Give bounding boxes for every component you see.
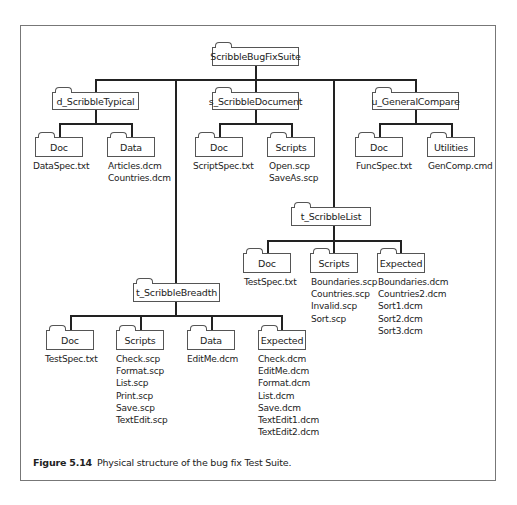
connector (267, 240, 269, 253)
folder-label: t_ScribbleBreadth (136, 287, 217, 298)
file-list: EditMe.dcm (187, 353, 238, 365)
folder-icon (49, 325, 66, 331)
folder-t-scribble-breadth: t_ScribbleBreadth (133, 283, 220, 302)
file-item: Articles.dcm (108, 160, 171, 172)
folder-doc: Doc (243, 253, 291, 273)
folder-icon (430, 132, 447, 138)
file-list: GenComp.cmd (428, 160, 493, 172)
folder-icon (119, 325, 136, 331)
connector (379, 123, 381, 137)
folder-label: Data (200, 335, 222, 346)
folder-doc: Doc (35, 137, 83, 157)
file-item: Print.scp (116, 390, 167, 402)
file-item: TestSpec.txt (45, 353, 97, 365)
file-item: TextEdit.scp (116, 414, 167, 426)
folder-icon (198, 132, 215, 138)
file-item: Check.dcm (258, 353, 319, 365)
folder-scripts: Scripts (310, 253, 358, 273)
file-item: GenComp.cmd (428, 160, 493, 172)
connector (219, 123, 292, 125)
connector (255, 79, 257, 92)
figure-caption: Figure 5.14Physical structure of the bug… (33, 457, 291, 468)
folder-label: Expected (380, 258, 423, 269)
connector (211, 315, 213, 330)
folder-label: Doc (50, 142, 68, 153)
connector (379, 123, 452, 125)
file-list: ScriptSpec.txt (193, 160, 253, 172)
file-item: Sort3.dcm (378, 325, 448, 337)
folder-data: Data (107, 137, 155, 157)
connector (59, 123, 132, 125)
folder-label: Expected (261, 335, 304, 346)
file-list: Boundaries.scp Countries.scp Invalid.scp… (311, 276, 377, 325)
file-list: FuncSpec.txt (356, 160, 412, 172)
file-item: Format.scp (116, 365, 167, 377)
folder-label: Doc (370, 142, 388, 153)
folder-icon (110, 132, 127, 138)
file-item: Countries2.dcm (378, 288, 448, 300)
file-item: Sort2.dcm (378, 313, 448, 325)
folder-u-general-compare: u_GeneralCompare (372, 92, 459, 110)
folder-label: Scripts (124, 335, 155, 346)
file-item: ScriptSpec.txt (193, 160, 253, 172)
folder-icon (215, 42, 232, 48)
folder-icon (358, 132, 375, 138)
folder-icon (261, 325, 278, 331)
folder-icon (246, 248, 263, 254)
connector (175, 302, 177, 315)
file-item: List.dcm (258, 390, 319, 402)
file-list: Articles.dcm Countries.dcm (108, 160, 171, 184)
connector (255, 66, 257, 79)
folder-label: d_ScribbleTypical (56, 96, 134, 107)
file-item: Sort1.dcm (378, 300, 448, 312)
file-item: Save.scp (116, 402, 167, 414)
connector (175, 79, 177, 283)
file-item: TextEdit1.dcm (258, 414, 319, 426)
file-item: Countries.dcm (108, 172, 171, 184)
folder-label: ScribbleBugFixSuite (210, 51, 300, 62)
folder-d-scribble-typical: d_ScribbleTypical (52, 92, 139, 110)
folder-label: s_ScribbleDocument (209, 96, 303, 107)
connector (255, 110, 257, 123)
file-item: List.scp (116, 377, 167, 389)
file-item: Countries.scp (311, 288, 377, 300)
connector (451, 123, 453, 137)
folder-expected: Expected (377, 253, 425, 273)
folder-icon (380, 248, 397, 254)
folder-label: Scripts (275, 142, 306, 153)
folder-icon (313, 248, 330, 254)
connector (131, 123, 133, 137)
file-item: TestSpec.txt (244, 276, 296, 288)
folder-icon (190, 325, 207, 331)
file-list: Check.dcm EditMe.dcm Format.dcm List.dcm… (258, 353, 319, 438)
file-item: Check.scp (116, 353, 167, 365)
folder-t-scribble-list: t_ScribbleList (291, 207, 371, 226)
file-item: SaveAs.scp (269, 172, 318, 184)
connector (333, 79, 335, 207)
folder-label: Doc (210, 142, 228, 153)
file-item: Format.dcm (258, 377, 319, 389)
connector (59, 123, 61, 137)
folder-icon (294, 202, 311, 208)
file-item: Boundaries.scp (311, 276, 377, 288)
connector (333, 240, 335, 253)
folder-label: Doc (61, 335, 79, 346)
folder-icon (55, 87, 72, 93)
folder-label: t_ScribbleList (301, 211, 362, 222)
figure-number: Figure 5.14 (33, 457, 92, 468)
file-item: Boundaries.dcm (378, 276, 448, 288)
folder-doc: Doc (195, 137, 243, 157)
file-item: Invalid.scp (311, 300, 377, 312)
file-list: Check.scp Format.scp List.scp Print.scp … (116, 353, 167, 426)
file-list: Boundaries.dcm Countries2.dcm Sort1.dcm … (378, 276, 448, 337)
connector (281, 315, 283, 330)
folder-icon (215, 87, 232, 93)
file-list: DataSpec.txt (33, 160, 89, 172)
folder-label: Utilities (434, 142, 468, 153)
connector (140, 315, 142, 330)
file-list: TestSpec.txt (244, 276, 296, 288)
connector (70, 315, 281, 317)
folder-utilities: Utilities (427, 137, 475, 157)
connector (400, 240, 402, 253)
folder-scripts: Scripts (267, 137, 315, 157)
